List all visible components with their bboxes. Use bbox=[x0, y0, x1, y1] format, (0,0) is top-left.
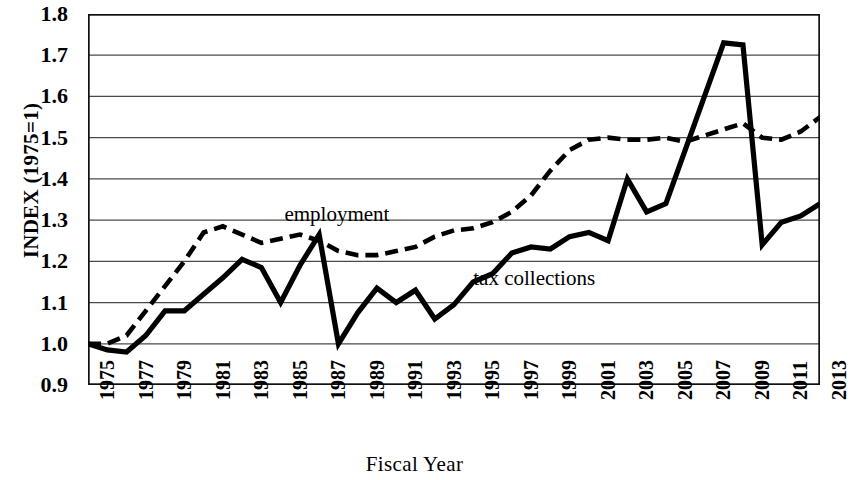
series-line-employment bbox=[88, 117, 820, 344]
x-tick-label: 1975 bbox=[96, 360, 119, 400]
y-tick-label: 1.4 bbox=[14, 166, 68, 192]
y-tick-label: 1.5 bbox=[14, 125, 68, 151]
x-tick-label: 1985 bbox=[289, 360, 312, 400]
x-tick-label: 1997 bbox=[520, 360, 543, 400]
y-tick-label: 1.1 bbox=[14, 290, 68, 316]
x-tick-label: 1987 bbox=[327, 360, 350, 400]
x-tick-label: 2011 bbox=[789, 361, 812, 400]
chart-svg bbox=[88, 14, 820, 385]
x-tick-label: 2009 bbox=[751, 360, 774, 400]
x-tick-label: 1981 bbox=[212, 360, 235, 400]
x-axis-title: Fiscal Year bbox=[0, 452, 829, 477]
plot-frame bbox=[89, 15, 820, 385]
x-tick-label: 1989 bbox=[366, 360, 389, 400]
y-tick-label: 1.8 bbox=[14, 1, 68, 27]
series-line-tax-collections bbox=[88, 43, 820, 352]
x-tick-label: 2013 bbox=[828, 360, 851, 400]
x-tick-label: 2005 bbox=[674, 360, 697, 400]
series-label-tax-collections: tax collections bbox=[473, 266, 595, 291]
plot-area bbox=[88, 14, 820, 385]
x-tick-label: 2003 bbox=[635, 360, 658, 400]
y-tick-label: 0.9 bbox=[14, 372, 68, 398]
y-tick-label: 1.6 bbox=[14, 83, 68, 109]
y-tick-label: 1.3 bbox=[14, 207, 68, 233]
x-tick-label: 2001 bbox=[597, 360, 620, 400]
x-tick-label: 1999 bbox=[558, 360, 581, 400]
y-tick-label: 1.0 bbox=[14, 331, 68, 357]
y-tick-label: 1.2 bbox=[14, 248, 68, 274]
y-tick-label: 1.7 bbox=[14, 42, 68, 68]
series-label-employment: employment bbox=[284, 202, 389, 227]
x-tick-label: 1995 bbox=[481, 360, 504, 400]
x-tick-label: 2007 bbox=[712, 360, 735, 400]
x-tick-label: 1983 bbox=[250, 360, 273, 400]
x-tick-label: 1993 bbox=[443, 360, 466, 400]
x-tick-label: 1979 bbox=[173, 360, 196, 400]
x-tick-label: 1977 bbox=[135, 360, 158, 400]
x-tick-label: 1991 bbox=[404, 360, 427, 400]
